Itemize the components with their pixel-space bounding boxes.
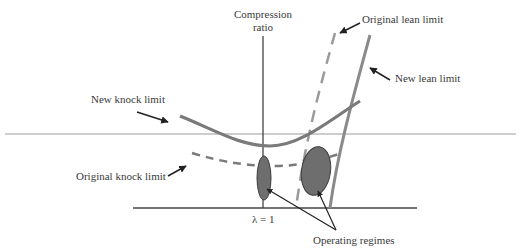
label-lambda-one: λ = 1 [252, 213, 275, 226]
label-original-knock-limit: Original knock limit [76, 170, 166, 183]
new-lean-limit-curve [330, 35, 370, 208]
new-knock-limit-curve [180, 101, 360, 146]
arrow-new-knock-limit [137, 112, 168, 122]
axis-label-line2: ratio [230, 21, 296, 34]
label-operating-regimes: Operating regimes [313, 234, 395, 247]
label-new-lean-limit: New lean limit [395, 72, 460, 85]
label-original-lean-limit: Original lean limit [362, 13, 443, 26]
axis-label-line1: Compression [230, 8, 296, 21]
operating-regime-lean [298, 145, 334, 198]
arrow-original-knock-limit [168, 166, 186, 176]
arrow-original-lean-limit [340, 23, 360, 33]
operating-regime-stoichiometric [257, 156, 271, 200]
label-new-knock-limit: New knock limit [91, 93, 165, 106]
arrow-new-lean-limit [370, 68, 390, 80]
arrow-regime-small [267, 189, 336, 230]
axis-label-compression-ratio: Compression ratio [230, 8, 296, 33]
